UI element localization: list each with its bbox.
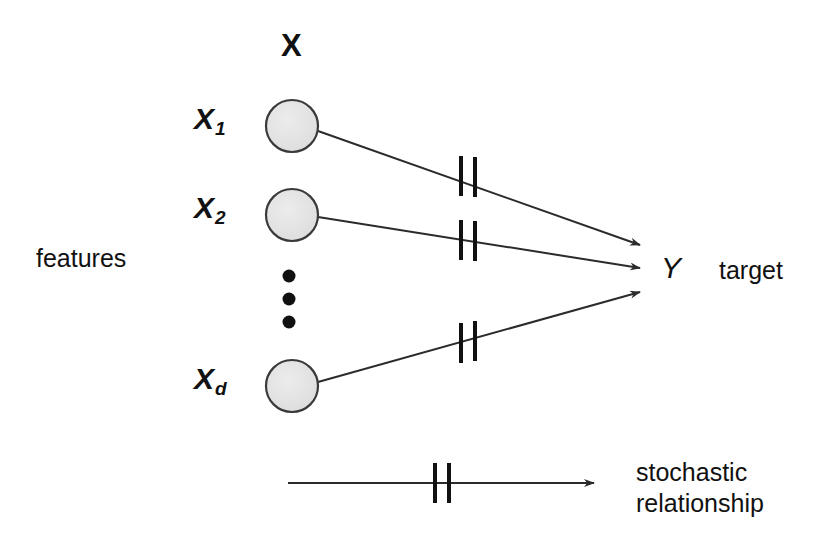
- edge-x2-to-y: [318, 217, 640, 268]
- diagram-canvas: X features X1 X2 Xd Y target stochastic …: [0, 0, 839, 545]
- feature-vector-label: X: [281, 30, 302, 61]
- target-label: target: [719, 258, 783, 283]
- edge-xd-to-y: [318, 292, 640, 382]
- stochastic-tick-edge-x1: [461, 156, 475, 197]
- node-label-x2-subscript: 2: [215, 207, 226, 228]
- legend-arrow: [288, 463, 594, 503]
- node-label-xd-subscript: d: [215, 378, 227, 399]
- node-group: [266, 100, 318, 412]
- node-label-x2-base: X: [194, 191, 214, 224]
- node-x2[interactable]: [266, 189, 318, 241]
- edge-group: [318, 131, 640, 382]
- node-label-x1-subscript: 1: [215, 118, 226, 139]
- node-label-x2: X2: [194, 193, 226, 227]
- target-variable-label: Y: [661, 253, 681, 283]
- edge-x1-to-y: [318, 131, 640, 245]
- node-label-x1: X1: [194, 104, 226, 138]
- node-label-x1-base: X: [194, 102, 214, 135]
- node-label-xd-base: X: [194, 362, 214, 395]
- stochastic-tick-group: [461, 156, 475, 363]
- legend-text-line2: relationship: [636, 488, 764, 519]
- node-x1[interactable]: [266, 100, 318, 152]
- vertical-ellipsis-icon: [283, 270, 296, 329]
- node-xd[interactable]: [266, 360, 318, 412]
- node-label-xd: Xd: [194, 364, 227, 398]
- legend-text-line1: stochastic: [636, 457, 764, 488]
- features-label: features: [36, 246, 126, 271]
- legend-text: stochastic relationship: [636, 457, 764, 520]
